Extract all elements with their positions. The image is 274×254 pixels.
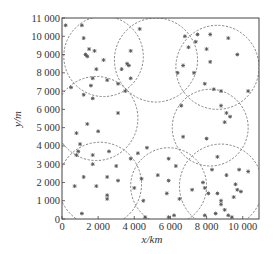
data-point-star-icon xyxy=(78,142,82,146)
x-tick-label: 0 xyxy=(59,221,64,232)
coverage-circle xyxy=(179,144,262,228)
data-point-star-icon xyxy=(203,82,207,86)
x-tick-label: 4 000 xyxy=(122,221,146,232)
data-point-star-icon xyxy=(183,34,187,38)
data-point-star-icon xyxy=(141,199,145,203)
data-point-star-icon xyxy=(223,208,227,212)
data-point-star-icon xyxy=(76,149,80,153)
data-point-star-icon xyxy=(206,192,210,196)
x-axis-label: x/km xyxy=(141,233,163,245)
x-tick-label: 8 000 xyxy=(195,221,219,232)
data-point-star-icon xyxy=(167,157,171,161)
coverage-circle xyxy=(64,16,144,96)
x-tick-label: 6 000 xyxy=(159,221,183,232)
data-point-star-icon xyxy=(226,213,230,217)
data-point-star-icon xyxy=(75,131,79,135)
data-point-star-icon xyxy=(96,129,100,133)
data-point-star-icon xyxy=(129,76,133,80)
data-point-star-icon xyxy=(87,47,91,51)
data-point-star-icon xyxy=(123,89,127,93)
y-tick-label: 4 000 xyxy=(36,140,60,151)
data-point-star-icon xyxy=(181,64,185,68)
y-tick-label: 10 000 xyxy=(31,31,60,42)
data-point-star-icon xyxy=(167,179,171,183)
y-tick-label: 5 000 xyxy=(36,122,60,133)
data-point-star-icon xyxy=(219,199,223,203)
data-point-star-icon xyxy=(208,33,212,37)
data-point-star-icon xyxy=(89,84,93,88)
data-point-star-icon xyxy=(239,190,243,194)
data-point-star-icon xyxy=(187,45,191,49)
data-point-star-icon xyxy=(94,67,98,71)
data-point-star-icon xyxy=(194,40,198,44)
data-point-star-icon xyxy=(228,115,232,119)
data-point-star-icon xyxy=(235,53,239,57)
data-point-star-icon xyxy=(235,188,239,192)
data-point-star-icon xyxy=(216,192,220,196)
data-point-star-icon xyxy=(91,76,95,80)
data-point-star-icon xyxy=(232,195,236,199)
y-axis-label: y/m xyxy=(11,111,23,128)
data-point-star-icon xyxy=(80,212,84,216)
data-point-star-icon xyxy=(80,23,84,27)
data-point-star-icon xyxy=(102,58,106,62)
y-tick-label: 11 000 xyxy=(32,13,61,24)
data-point-star-icon xyxy=(140,177,144,181)
data-point-star-icon xyxy=(192,71,196,75)
data-point-star-icon xyxy=(120,67,124,71)
data-point-star-icon xyxy=(107,149,111,153)
data-point-star-icon xyxy=(208,60,212,64)
data-point-star-icon xyxy=(246,89,250,93)
data-point-star-icon xyxy=(116,179,120,183)
data-point-star-icon xyxy=(176,71,180,75)
data-point-star-icon xyxy=(114,164,118,168)
data-point-star-icon xyxy=(91,97,95,101)
data-point-star-icon xyxy=(174,164,178,168)
x-axis-ticks: 02 0004 0006 0008 00010 000 xyxy=(59,216,257,232)
coverage-circles xyxy=(55,16,263,228)
data-point-star-icon xyxy=(132,186,136,190)
data-point-star-icon xyxy=(196,33,200,37)
data-point-star-icon xyxy=(73,184,77,188)
data-point-star-icon xyxy=(105,175,109,179)
data-point-star-icon xyxy=(116,82,120,86)
data-point-star-icon xyxy=(129,157,133,161)
data-point-star-icon xyxy=(225,173,229,177)
y-tick-label: 2 000 xyxy=(36,177,60,188)
data-point-star-icon xyxy=(216,155,220,159)
y-tick-label: 8 000 xyxy=(36,67,60,78)
plot-frame xyxy=(62,18,259,219)
data-point-star-icon xyxy=(156,173,160,177)
data-point-star-icon xyxy=(91,162,95,166)
coverage-circle xyxy=(58,142,141,226)
data-point-star-icon xyxy=(82,175,86,179)
data-point-star-icon xyxy=(172,213,176,217)
x-tick-label: 2 000 xyxy=(86,221,110,232)
y-tick-label: 6 000 xyxy=(36,104,60,115)
data-point-star-icon xyxy=(165,192,169,196)
data-point-star-icon xyxy=(181,135,185,139)
data-point-star-icon xyxy=(85,54,89,58)
data-point-star-icon xyxy=(129,49,133,53)
data-point-star-icon xyxy=(136,151,140,155)
data-point-star-icon xyxy=(178,197,182,201)
data-point-star-icon xyxy=(69,86,73,90)
y-tick-label: 3 000 xyxy=(36,159,60,170)
data-points xyxy=(64,23,250,219)
data-point-star-icon xyxy=(219,202,223,206)
y-tick-label: 7 000 xyxy=(36,86,60,97)
data-point-star-icon xyxy=(225,111,229,115)
y-tick-label: 0 xyxy=(55,214,60,225)
data-point-star-icon xyxy=(127,64,131,68)
data-point-star-icon xyxy=(116,111,120,115)
data-point-star-icon xyxy=(190,188,194,192)
data-point-star-icon xyxy=(82,93,86,97)
data-point-star-icon xyxy=(179,104,183,108)
data-point-star-icon xyxy=(203,213,207,217)
data-point-star-icon xyxy=(219,104,223,108)
data-point-star-icon xyxy=(75,153,79,157)
data-point-star-icon xyxy=(237,168,241,172)
data-point-star-icon xyxy=(226,36,230,40)
data-point-star-icon xyxy=(205,47,209,51)
data-point-star-icon xyxy=(223,120,227,124)
